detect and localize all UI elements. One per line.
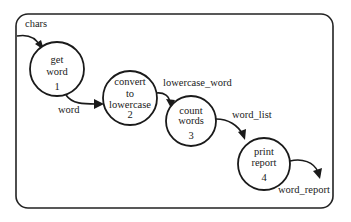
flow-word-list: word_list [216, 109, 272, 140]
process-label-line: word [46, 66, 68, 77]
process-label-line: words [178, 115, 204, 126]
process-number: 4 [261, 172, 267, 183]
process-number: 3 [188, 130, 193, 141]
flow-word-list-label: word_list [232, 109, 272, 120]
process-count-words: count words 3 [166, 96, 216, 146]
flow-word-report-line [290, 160, 318, 172]
process-get-word: get word 1 [30, 42, 84, 96]
data-flow-diagram: chars word lowercase_word word_list word… [0, 0, 351, 222]
process-label-line: convert [114, 76, 146, 87]
process-number: 1 [54, 81, 59, 92]
flow-chars-label: chars [25, 18, 47, 29]
flow-lowercase-word-label: lowercase_word [163, 77, 233, 88]
process-number: 2 [127, 109, 132, 120]
process-convert-to-lowercase: convert to lowercase 2 [103, 71, 157, 125]
process-label-line: print [254, 146, 274, 157]
process-label-line: to [126, 88, 134, 99]
process-print-report: print report 4 [238, 138, 290, 190]
flow-word: word [58, 95, 104, 115]
flow-word-report-label: word_report [278, 184, 330, 195]
flow-word-label: word [58, 104, 80, 115]
flow-word-report-arrowhead [313, 168, 322, 179]
process-label-line: get [51, 54, 64, 65]
process-label-line: report [251, 157, 276, 168]
flow-word-list-arrowhead [238, 129, 246, 140]
flow-word-line [66, 95, 96, 104]
